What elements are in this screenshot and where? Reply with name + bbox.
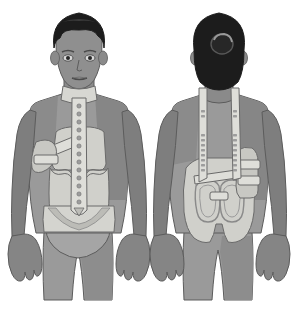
illustration-canvas — [0, 0, 295, 314]
spinal-brace-illustration — [0, 0, 295, 314]
back-left-hand — [150, 234, 184, 281]
back-center-buckle — [210, 192, 228, 200]
front-right-hand — [116, 234, 150, 281]
front-strap-buckle — [34, 155, 58, 164]
back-right-hand — [256, 234, 290, 281]
back-lateral-buckle-upper — [238, 160, 260, 169]
front-left-hand — [8, 234, 42, 281]
back-head — [191, 13, 248, 90]
